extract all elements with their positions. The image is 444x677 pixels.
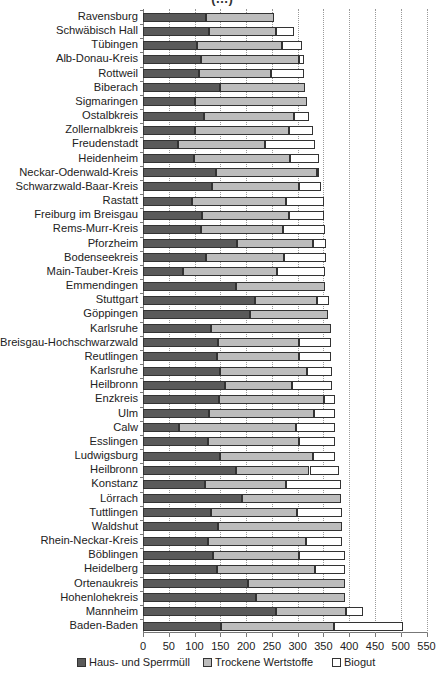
category-label: Calw bbox=[113, 421, 138, 434]
x-tick-label: 550 bbox=[412, 640, 442, 652]
category-label: Freiburg im Breisgau bbox=[34, 208, 138, 221]
bar-segment-trockene-wertstoffe bbox=[201, 55, 299, 64]
x-tick bbox=[401, 633, 402, 637]
bar-segment-biogut bbox=[286, 480, 342, 489]
bar-segment-trockene-wertstoffe bbox=[211, 324, 331, 333]
bar-segment-trockene-wertstoffe bbox=[206, 13, 274, 22]
legend-item-biogut: Biogut bbox=[332, 656, 375, 668]
bar-segment-trockene-wertstoffe bbox=[183, 267, 277, 276]
bar-segment-biogut bbox=[294, 112, 309, 121]
category-label: Heidelberg bbox=[84, 562, 138, 575]
category-label: Karlsruhe bbox=[90, 322, 138, 335]
y-tick bbox=[140, 591, 143, 592]
bar-segment-haus-sperrmuell bbox=[143, 83, 220, 92]
bar-segment-haus-sperrmuell bbox=[143, 13, 206, 22]
y-tick bbox=[140, 293, 143, 294]
category-label: Ludwigsburg bbox=[75, 449, 138, 462]
bar-segment-trockene-wertstoffe bbox=[220, 452, 312, 461]
category-label: Emmendingen bbox=[66, 279, 138, 292]
y-tick bbox=[140, 562, 143, 563]
bar-segment-trockene-wertstoffe bbox=[225, 381, 292, 390]
category-label: Main-Tauber-Kreis bbox=[47, 265, 138, 278]
bar-segment-trockene-wertstoffe bbox=[242, 494, 340, 503]
bar-segment-trockene-wertstoffe bbox=[217, 565, 314, 574]
category-label: Heilbronn bbox=[90, 378, 138, 391]
bar-segment-haus-sperrmuell bbox=[143, 579, 248, 588]
bar-segment-biogut bbox=[299, 338, 331, 347]
bar-segment-biogut bbox=[284, 253, 326, 262]
bar-segment-biogut bbox=[334, 622, 403, 631]
bar-segment-haus-sperrmuell bbox=[143, 154, 194, 163]
x-tick bbox=[143, 633, 144, 637]
category-label: Biberach bbox=[94, 81, 138, 94]
y-tick bbox=[140, 137, 143, 138]
category-label: Göppingen bbox=[83, 307, 138, 320]
x-axis bbox=[143, 632, 428, 633]
plot-area bbox=[143, 9, 428, 633]
category-label: Pforzheim bbox=[88, 237, 138, 250]
bar-segment-haus-sperrmuell bbox=[143, 55, 201, 64]
bar-segment-biogut bbox=[313, 452, 335, 461]
bar-segment-biogut bbox=[290, 154, 319, 163]
x-tick bbox=[272, 633, 273, 637]
y-tick bbox=[140, 407, 143, 408]
bar-segment-biogut bbox=[324, 395, 334, 404]
bar-segment-trockene-wertstoffe bbox=[211, 508, 298, 517]
bar-segment-trockene-wertstoffe bbox=[220, 367, 307, 376]
y-tick bbox=[140, 322, 143, 323]
bar-segment-biogut bbox=[310, 466, 339, 475]
category-label: Waldshut bbox=[92, 520, 138, 533]
bar-segment-trockene-wertstoffe bbox=[202, 211, 290, 220]
y-tick bbox=[140, 605, 143, 606]
y-tick bbox=[140, 109, 143, 110]
x-tick bbox=[349, 633, 350, 637]
category-label: Mannheim bbox=[86, 605, 138, 618]
bar-segment-haus-sperrmuell bbox=[143, 338, 218, 347]
y-tick bbox=[140, 222, 143, 223]
category-label: Bodenseekreis bbox=[64, 251, 138, 264]
y-tick bbox=[140, 492, 143, 493]
bar-segment-haus-sperrmuell bbox=[143, 466, 236, 475]
bar-segment-trockene-wertstoffe bbox=[206, 253, 284, 262]
category-label: Heidenheim bbox=[78, 152, 138, 165]
bar-segment-biogut bbox=[289, 211, 324, 220]
bar-segment-haus-sperrmuell bbox=[143, 565, 217, 574]
bar-segment-haus-sperrmuell bbox=[143, 593, 256, 602]
category-label: Ulm bbox=[118, 407, 138, 420]
bar-segment-biogut bbox=[276, 27, 294, 36]
bar-segment-trockene-wertstoffe bbox=[218, 338, 299, 347]
category-label: Konstanz bbox=[91, 477, 138, 490]
legend-item-haus-sperrmuell: Haus- und Sperrmüll bbox=[77, 656, 190, 668]
bar-segment-biogut bbox=[277, 267, 326, 276]
bar-segment-trockene-wertstoffe bbox=[208, 437, 298, 446]
x-tick bbox=[375, 633, 376, 637]
category-label: Schwarzwald-Baar-Kreis bbox=[16, 180, 138, 193]
bar-segment-trockene-wertstoffe bbox=[236, 282, 325, 291]
bar-segment-biogut bbox=[313, 239, 326, 248]
bar-segment-trockene-wertstoffe bbox=[204, 112, 294, 121]
bar-segment-trockene-wertstoffe bbox=[205, 480, 285, 489]
bar-segment-haus-sperrmuell bbox=[143, 182, 212, 191]
bar-segment-trockene-wertstoffe bbox=[218, 522, 342, 531]
bar-segment-biogut bbox=[315, 565, 345, 574]
bar-segment-haus-sperrmuell bbox=[143, 253, 206, 262]
bar-segment-haus-sperrmuell bbox=[143, 27, 209, 36]
y-tick bbox=[140, 166, 143, 167]
category-label: Freudenstadt bbox=[72, 137, 138, 150]
bar-segment-biogut bbox=[307, 367, 332, 376]
bar-segment-haus-sperrmuell bbox=[143, 367, 220, 376]
category-label: Tuttlingen bbox=[89, 506, 138, 519]
bar-segment-trockene-wertstoffe bbox=[237, 239, 313, 248]
y-tick bbox=[140, 52, 143, 53]
category-label: Lörrach bbox=[100, 492, 138, 505]
bar-segment-haus-sperrmuell bbox=[143, 607, 276, 616]
category-label: Neckar-Odenwald-Kreis bbox=[19, 166, 138, 179]
y-tick bbox=[140, 477, 143, 478]
y-tick bbox=[140, 123, 143, 124]
bar-segment-trockene-wertstoffe bbox=[219, 395, 324, 404]
category-label: Rems-Murr-Kreis bbox=[53, 222, 138, 235]
bar-segment-haus-sperrmuell bbox=[143, 225, 201, 234]
category-label: Enzkreis bbox=[95, 392, 138, 405]
bar-segment-biogut bbox=[289, 126, 312, 135]
category-label: Karlsruhe bbox=[90, 364, 138, 377]
